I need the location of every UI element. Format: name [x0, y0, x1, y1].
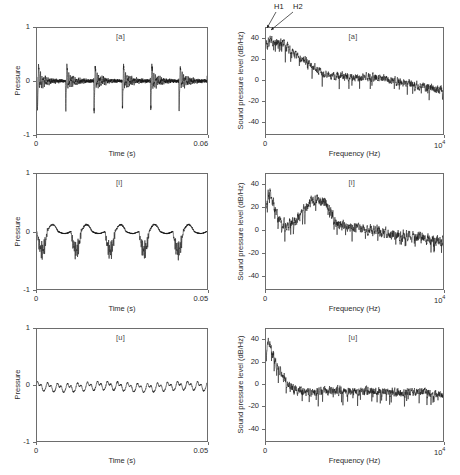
plot-area-spectrum-u [265, 328, 444, 442]
data-curve-spectrum-u [266, 329, 443, 441]
panel-letter-spectrum-u: [u] [349, 333, 358, 342]
xtick-mark-spectrum-u-1 [444, 442, 445, 445]
ytick-mark-spectrum-u-1 [262, 362, 265, 363]
ytick-mark-spectrum-u-2 [262, 384, 265, 385]
ytick-mark-spectrum-u-0 [262, 339, 265, 340]
exponent: 4 [442, 446, 445, 452]
panel-spectrum-u: [u]40200-20-400104Frequency (Hz)Sound pr… [0, 0, 460, 475]
ytick-mark-spectrum-u-3 [262, 406, 265, 407]
xtick-mark-spectrum-u-0 [265, 442, 266, 445]
yaxis-label-spectrum-u: Sound pressure level (dB/Hz) [236, 315, 245, 455]
xaxis-label-spectrum-u: Frequency (Hz) [265, 456, 444, 465]
xtick-label-spectrum-u-0: 0 [263, 446, 267, 455]
ytick-mark-spectrum-u-4 [262, 429, 265, 430]
xtick-label-spectrum-u-1: 104 [434, 446, 445, 457]
figure-root: [a]10-100.06Time (s)Pressure[a]40200-20-… [0, 0, 460, 475]
